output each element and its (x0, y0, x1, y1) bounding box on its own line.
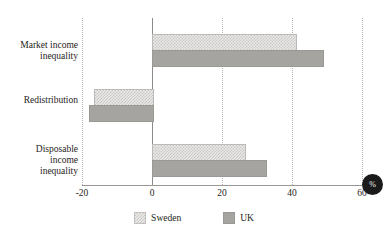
gridline--20 (82, 18, 84, 185)
y-label-line: inequality (40, 166, 78, 176)
x-tick-40: 40 (287, 188, 297, 198)
gridline-60 (362, 18, 364, 185)
y-label-line: inequality (40, 51, 78, 61)
uk-swatch-icon (223, 212, 235, 224)
legend-item-uk: UK (223, 212, 254, 224)
sweden-swatch-icon (134, 212, 146, 224)
y-label-line: income (50, 155, 78, 165)
y-label-line: Disposable (36, 144, 78, 154)
plot-area (82, 18, 362, 185)
bar-market-income-inequality-sweden (152, 34, 297, 51)
x-tick-0: 0 (150, 188, 155, 198)
legend-label-uk: UK (240, 213, 254, 223)
y-axis-label-disposable-income-inequality: Disposable income inequality (0, 144, 78, 177)
x-axis-line (82, 185, 364, 186)
percent-unit-badge: % (362, 174, 383, 195)
y-axis-label-redistribution: Redistribution (0, 95, 78, 106)
bar-market-income-inequality-uk (152, 50, 324, 67)
x-tick--20: -20 (76, 188, 89, 198)
y-label-line: Redistribution (24, 95, 78, 105)
y-axis-labels: Market income inequality Redistribution … (0, 18, 78, 185)
bar-redistribution-uk (89, 105, 154, 122)
chart-legend: Sweden UK (0, 212, 388, 224)
bar-chart: Market income inequality Redistribution … (0, 0, 388, 240)
bar-disposable-income-inequality-uk (152, 160, 267, 177)
x-tick-20: 20 (217, 188, 227, 198)
legend-item-sweden: Sweden (134, 212, 181, 224)
bar-disposable-income-inequality-sweden (152, 144, 246, 161)
bar-redistribution-sweden (94, 89, 154, 106)
legend-label-sweden: Sweden (151, 213, 181, 223)
y-axis-label-market-income-inequality: Market income inequality (0, 40, 78, 62)
y-label-line: Market income (20, 40, 78, 50)
